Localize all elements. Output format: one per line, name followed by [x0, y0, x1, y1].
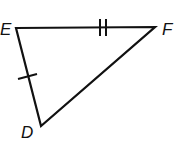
vertex-label-e: E	[0, 20, 12, 39]
vertex-label-d: D	[21, 123, 33, 142]
vertex-label-f: F	[162, 20, 174, 39]
triangle-def	[16, 27, 155, 126]
triangle-diagram: E F D	[0, 0, 180, 144]
